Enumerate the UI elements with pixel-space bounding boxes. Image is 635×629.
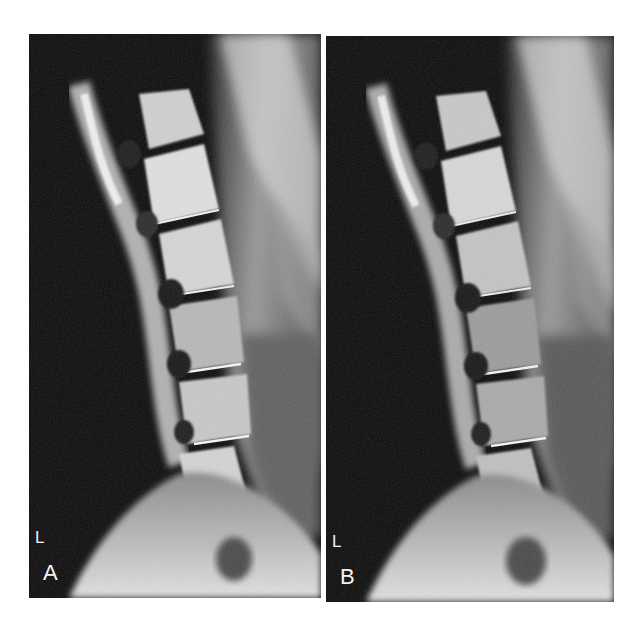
panel-label-a: A [43, 562, 58, 584]
spine-xray-image-a [29, 34, 321, 598]
side-marker-b: L [332, 533, 341, 550]
side-marker-a: L [35, 529, 44, 546]
radiograph-panel-a: L A [29, 34, 321, 598]
panel-label-b: B [340, 566, 355, 588]
radiograph-panel-b: L B [326, 36, 614, 602]
spine-xray-image-b [326, 36, 614, 602]
